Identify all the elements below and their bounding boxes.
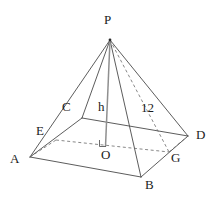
- apex-point-dot: [109, 39, 112, 42]
- edge-P-C: [82, 40, 110, 118]
- edge-P-B: [110, 40, 141, 177]
- measure-label-height-h: h: [98, 100, 105, 113]
- edge-B-D: [141, 136, 188, 177]
- pyramid-figure: [0, 0, 219, 200]
- measure-label-slant-12: 12: [141, 101, 154, 114]
- edge-A-B: [30, 157, 141, 177]
- vertex-label-E: E: [36, 124, 44, 137]
- edge-P-G-hidden: [110, 40, 169, 152]
- edge-C-D: [82, 118, 188, 136]
- vertex-label-C: C: [62, 100, 71, 113]
- vertex-label-D: D: [196, 128, 205, 141]
- vertex-label-G: G: [171, 151, 180, 164]
- edge-E-G-hidden: [56, 140, 169, 152]
- vertex-label-A: A: [10, 152, 19, 165]
- diagram-canvas: P A B D G E C O h 12: [0, 0, 219, 200]
- height-line-P-O: [106, 40, 111, 147]
- edge-P-D: [110, 40, 188, 136]
- vertex-label-B: B: [145, 178, 154, 191]
- vertex-label-P: P: [104, 13, 111, 26]
- vertex-label-O: O: [101, 148, 110, 161]
